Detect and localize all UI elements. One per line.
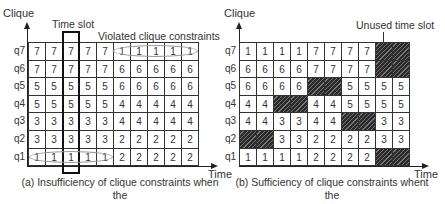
grid-cell: 6 — [181, 60, 199, 79]
grid-cell: 2 — [358, 130, 376, 149]
grid-cell: 7 — [96, 42, 114, 61]
unused-slot-cell — [375, 60, 393, 79]
grid-cell: 2 — [113, 130, 131, 149]
grid-cell: 4 — [239, 112, 257, 131]
grid-cell: 3 — [79, 112, 97, 131]
grid-cell: 2 — [307, 148, 325, 167]
grid-cell: 3 — [392, 112, 410, 131]
violated-ellipse-q7 — [113, 45, 198, 57]
grid-cell: 3 — [375, 112, 393, 131]
unused-slot-cell — [392, 148, 410, 167]
grid-cell: 6 — [290, 77, 308, 96]
grid-cell: 6 — [147, 77, 165, 96]
grid-cell: 3 — [273, 130, 291, 149]
row-label: q4 — [5, 98, 25, 109]
grid-cell: 2 — [358, 148, 376, 167]
grid-cell: 6 — [164, 60, 182, 79]
row-label: q4 — [216, 98, 236, 109]
grid-cell: 5 — [341, 95, 359, 114]
grid-cell: 7 — [341, 42, 359, 61]
grid-cell: 7 — [28, 42, 46, 61]
unused-slot-cell — [341, 112, 359, 131]
unused-slot-cell — [392, 60, 410, 79]
row-label: q7 — [216, 45, 236, 56]
caption-a-line1: (a) Insufficiency of clique constraints … — [20, 176, 220, 202]
row-label: q5 — [5, 80, 25, 91]
grid-cell: 4 — [181, 112, 199, 131]
unused-slot-cell — [256, 130, 274, 149]
arrow-up-icon — [24, 22, 30, 29]
grid-cell: 4 — [147, 95, 165, 114]
grid-cell: 6 — [239, 77, 257, 96]
unused-slot-cell — [324, 77, 342, 96]
grid-cell: 6 — [181, 77, 199, 96]
grid-cell: 7 — [28, 60, 46, 79]
grid-cell: 6 — [130, 60, 148, 79]
grid-cell: 7 — [324, 42, 342, 61]
grid-cell: 5 — [341, 77, 359, 96]
grid-cell: 5 — [79, 95, 97, 114]
grid-cell: 3 — [290, 112, 308, 131]
row-label: q5 — [216, 80, 236, 91]
row-label: q6 — [216, 63, 236, 74]
grid-cell: 1 — [273, 148, 291, 167]
grid-cell: 5 — [375, 95, 393, 114]
grid-cell: 6 — [256, 60, 274, 79]
grid-cell: 4 — [147, 112, 165, 131]
unused-slot-cell — [307, 77, 325, 96]
y-axis-label-a: Clique — [3, 7, 34, 19]
grid-cell: 2 — [130, 130, 148, 149]
grid-cell: 2 — [307, 130, 325, 149]
grid-cell: 2 — [130, 148, 148, 167]
grid-cell: 5 — [28, 95, 46, 114]
grid-cell: 3 — [45, 112, 63, 131]
row-label: q7 — [5, 45, 25, 56]
grid-cell: 1 — [256, 148, 274, 167]
caption-b-line1: (b) Sufficiency of clique constraints wh… — [232, 176, 432, 202]
grid-cell: 6 — [239, 60, 257, 79]
grid-cell: 7 — [307, 42, 325, 61]
grid-cell: 1 — [239, 42, 257, 61]
grid-cell: 4 — [324, 112, 342, 131]
unused-slot-cell — [273, 95, 291, 114]
grid-cell: 5 — [79, 77, 97, 96]
grid-cell: 2 — [147, 130, 165, 149]
grid-cell: 1 — [256, 42, 274, 61]
unused-slot-cell — [375, 148, 393, 167]
grid-cell: 5 — [96, 95, 114, 114]
grid-cell: 2 — [341, 148, 359, 167]
row-label: q1 — [5, 151, 25, 162]
grid-cell: 5 — [45, 77, 63, 96]
grid-cell: 3 — [392, 130, 410, 149]
grid-cell: 7 — [45, 42, 63, 61]
grid-cell: 6 — [113, 77, 131, 96]
grid-cell: 2 — [164, 148, 182, 167]
grid-cell: 2 — [113, 148, 131, 167]
grid-cell: 4 — [113, 95, 131, 114]
grid-cell: 2 — [324, 148, 342, 167]
unused-slot-leader-line — [383, 32, 384, 42]
grid-cell: 4 — [307, 112, 325, 131]
grid-cell: 2 — [341, 130, 359, 149]
caption-b: (b) Sufficiency of clique constraints wh… — [232, 176, 432, 204]
grid-cell: 7 — [45, 60, 63, 79]
unused-slot-cell — [392, 42, 410, 61]
grid-cell: 5 — [96, 77, 114, 96]
grid-cell: 7 — [307, 60, 325, 79]
caption-a-line2: solution is 0.5C — [20, 202, 220, 204]
unused-slot-cell — [290, 95, 308, 114]
grid-cell: 5 — [28, 77, 46, 96]
grid-cell: 2 — [181, 148, 199, 167]
grid-cell: 3 — [28, 130, 46, 149]
grid-cell: 3 — [375, 130, 393, 149]
grid-cell: 7 — [96, 60, 114, 79]
grid-cell: 5 — [392, 77, 410, 96]
row-label: q6 — [5, 63, 25, 74]
grid-cell: 6 — [164, 77, 182, 96]
grid-cell: 7 — [324, 60, 342, 79]
grid-cell: 6 — [273, 60, 291, 79]
grid-cell: 4 — [181, 95, 199, 114]
grid-cell: 5 — [358, 95, 376, 114]
grid-cell: 4 — [324, 95, 342, 114]
row-label: q2 — [216, 133, 236, 144]
